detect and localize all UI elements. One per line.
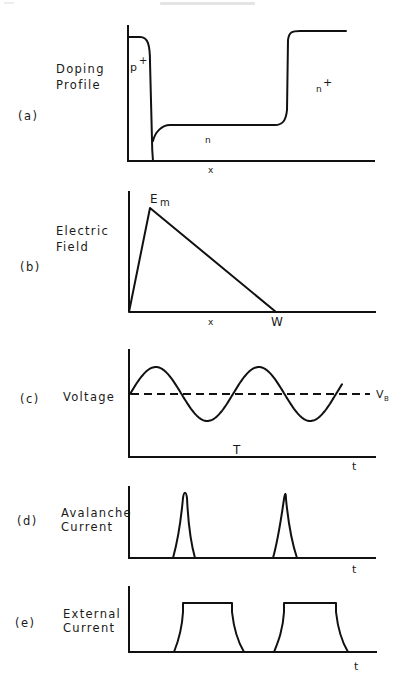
panel-a-nplus-label: n bbox=[316, 84, 322, 94]
panel-d-t-label: t bbox=[352, 563, 357, 576]
panel-c-vb-V: V bbox=[376, 388, 384, 401]
panel-a-p-plus: + bbox=[139, 55, 147, 66]
panel-e-t-label: t bbox=[354, 660, 359, 673]
panel-b-label-line2: Field bbox=[56, 240, 89, 254]
panel-c-period-label: T bbox=[232, 443, 241, 457]
panel-a-label-line1: Doping bbox=[56, 62, 105, 76]
panel-b-em-E: E bbox=[150, 192, 158, 206]
panel-e-pulse-2 bbox=[274, 603, 348, 652]
panel-a-label-line2: Profile bbox=[56, 78, 101, 92]
panel-c-tag: (c) bbox=[20, 392, 40, 406]
figure: (a) Doping Profile p + n n + x (b) Elect… bbox=[0, 0, 406, 683]
panel-b-w-label: W bbox=[271, 315, 283, 329]
panel-e-label-line2: Current bbox=[63, 621, 115, 635]
panel-a-tag: (a) bbox=[18, 109, 39, 123]
panel-c: (c) Voltage V B T t bbox=[20, 349, 389, 473]
panel-b-label-line1: Electric bbox=[56, 224, 109, 238]
panel-d-tag: (d) bbox=[17, 514, 38, 528]
panel-d-spike-2 bbox=[273, 494, 297, 558]
panel-d: (d) Avalanche Current t bbox=[17, 486, 376, 576]
panel-b-tag: (b) bbox=[20, 260, 41, 274]
panel-e: (e) External Current t bbox=[15, 586, 377, 673]
panel-a: (a) Doping Profile p + n n + x bbox=[18, 25, 375, 175]
panel-a-nplus-plus: + bbox=[323, 76, 332, 89]
panel-a-x-label: x bbox=[208, 165, 214, 175]
panel-b-em-m: m bbox=[160, 197, 170, 208]
panel-c-vb-B: B bbox=[384, 395, 389, 403]
panel-a-p-label: p bbox=[130, 61, 137, 74]
panel-c-t-label: t bbox=[352, 460, 357, 473]
panel-d-label-line2: Current bbox=[61, 520, 113, 534]
panel-e-pulse-1 bbox=[174, 603, 244, 652]
panel-b-field-curve bbox=[129, 208, 276, 312]
panel-d-label-line1: Avalanche bbox=[61, 506, 132, 520]
panel-a-doping-curve bbox=[128, 31, 346, 161]
panel-b-x-label: x bbox=[208, 317, 214, 327]
panel-d-spike-1 bbox=[173, 493, 195, 558]
panel-b: (b) Electric Field E m W x bbox=[20, 191, 376, 329]
panel-e-label-line1: External bbox=[63, 607, 121, 621]
panel-a-n-label: n bbox=[205, 135, 211, 145]
panel-c-label: Voltage bbox=[63, 390, 115, 404]
panel-e-tag: (e) bbox=[15, 616, 36, 630]
